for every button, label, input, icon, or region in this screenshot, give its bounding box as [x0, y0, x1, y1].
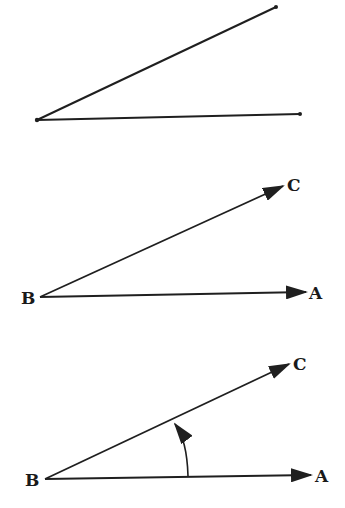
ray-ba: [40, 292, 306, 297]
label-point-a: A: [314, 466, 329, 486]
ray-bc: [40, 186, 283, 297]
label-point-c: C: [293, 354, 307, 374]
label-vertex-b: B: [25, 470, 39, 490]
endpoint-lower: [298, 112, 302, 116]
ray-bc: [45, 364, 289, 479]
segment-lower: [37, 114, 300, 120]
ray-ba: [45, 475, 311, 479]
label-point-c: C: [287, 175, 301, 195]
figure-2-rays: B C A: [21, 175, 323, 308]
figure-3-rotation: B C A: [25, 354, 329, 490]
label-point-a: A: [308, 283, 323, 303]
rotation-arc-arrow: [175, 424, 188, 476]
vertex-point: [35, 118, 39, 122]
label-vertex-b: B: [21, 288, 35, 308]
endpoint-upper: [274, 5, 278, 9]
figure-1-angle: [35, 5, 302, 122]
segment-upper: [37, 7, 276, 120]
angle-diagrams: B C A B C A: [0, 0, 345, 508]
